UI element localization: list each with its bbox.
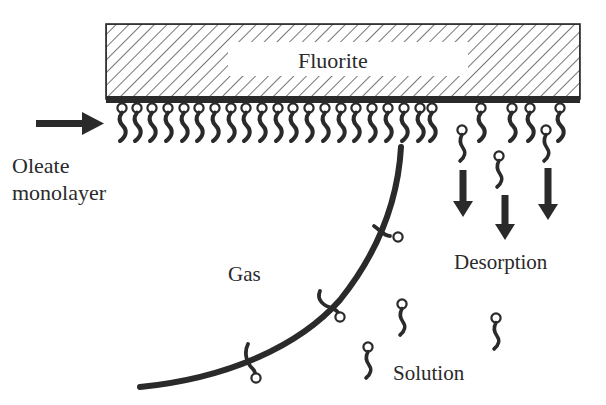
gas-bubble-surface: [140, 147, 401, 387]
arrow-down-icon: [453, 170, 473, 217]
desorbing-molecule: [494, 151, 503, 187]
desorption-arrows: [453, 168, 558, 240]
oleate-molecule: [304, 103, 313, 141]
solution-molecule: [363, 342, 372, 378]
oleate-molecule: [226, 103, 235, 141]
gas-label: Gas: [228, 264, 261, 285]
adsorbed-molecule: [507, 103, 516, 141]
fluorite-label: Fluorite: [298, 50, 368, 72]
oleate-molecule: [273, 103, 282, 141]
oleate-molecule: [288, 103, 297, 141]
adsorbed-molecule: [555, 103, 564, 141]
substrate-surface-strip: [106, 96, 580, 103]
oleate-monolayer: [117, 103, 436, 141]
oleate-molecule: [132, 103, 141, 141]
solution-molecule: [397, 299, 406, 335]
desorbing-molecule: [457, 125, 466, 161]
oleate-molecule: [179, 103, 188, 141]
desorbing-molecules: [457, 125, 550, 187]
sparse-adsorbed-molecules: [476, 103, 564, 141]
oleate-molecule: [117, 103, 126, 141]
oleate-molecule: [320, 103, 329, 141]
oleate-molecule: [257, 103, 266, 141]
oleate-molecule: [415, 103, 424, 141]
oleate-monolayer-label: Oleate monolayer: [12, 152, 106, 206]
oleate-molecule: [194, 103, 203, 141]
oleate-molecule: [163, 103, 172, 141]
bubble-attached-molecules: [246, 226, 403, 383]
oleate-molecule: [336, 103, 345, 141]
arrow-right-icon: [36, 112, 104, 135]
arrow-down-icon: [495, 195, 515, 240]
desorbing-molecule: [541, 125, 550, 161]
oleate-molecule: [351, 103, 360, 141]
oleate-label-line1: Oleate: [12, 152, 106, 179]
oleate-molecule: [210, 103, 219, 141]
oleate-molecule: [383, 103, 392, 141]
adsorbed-molecule: [476, 103, 485, 141]
desorption-label: Desorption: [454, 252, 547, 273]
arrow-down-icon: [538, 168, 558, 220]
oleate-label-line2: monolayer: [12, 179, 106, 206]
oleate-molecule: [427, 103, 436, 141]
oleate-molecule: [399, 103, 408, 141]
oleate-molecule: [241, 103, 250, 141]
solution-molecule: [491, 313, 500, 349]
adsorbed-molecule: [525, 103, 534, 141]
solution-label: Solution: [393, 363, 464, 384]
oleate-molecule: [367, 103, 376, 141]
oleate-molecule: [147, 103, 156, 141]
